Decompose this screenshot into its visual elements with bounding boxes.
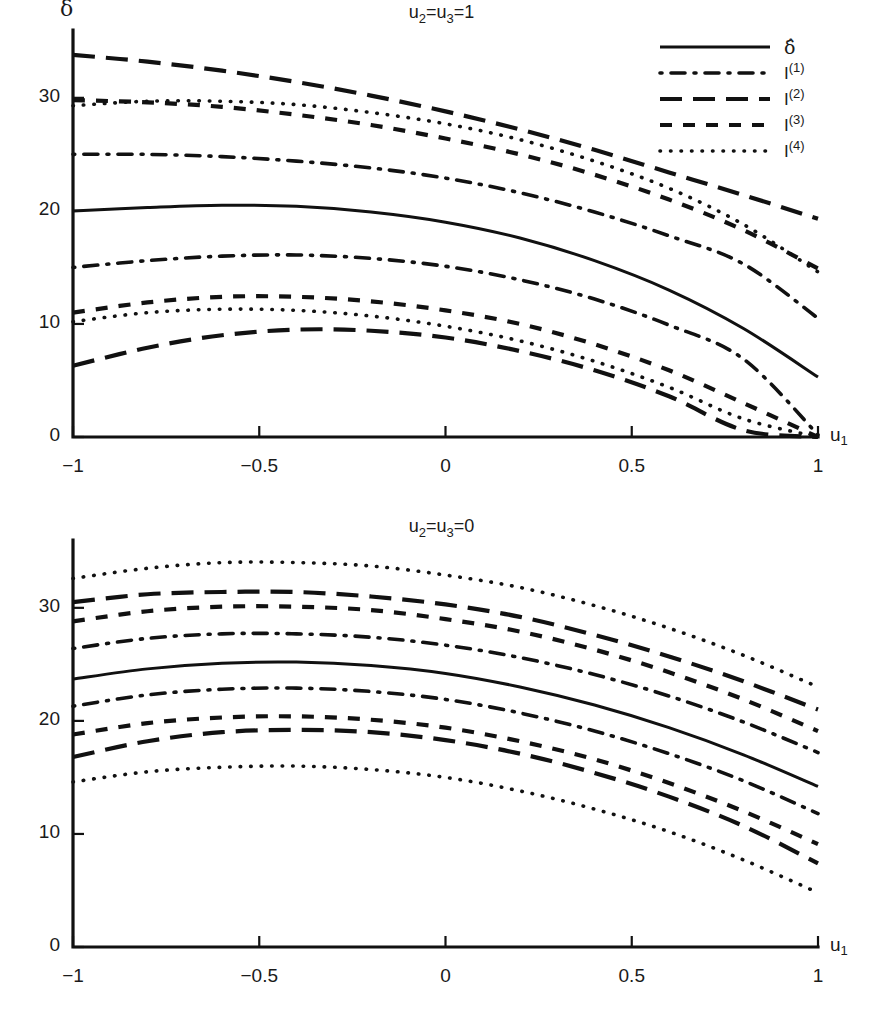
curve-i1upper xyxy=(73,154,818,318)
x-axis-title-bottom: u1 xyxy=(830,934,848,958)
x-tick-label: −0.5 xyxy=(219,455,299,477)
y-tick-label: 30 xyxy=(0,85,60,107)
y-tick-label: 10 xyxy=(0,311,60,333)
legend-label-I-3: I(3) xyxy=(784,112,805,136)
title-u3-sub: 3 xyxy=(447,525,454,540)
curve-group-top xyxy=(73,55,818,437)
title-u2-base: u xyxy=(409,516,419,536)
title-u2-sub: 2 xyxy=(419,11,426,26)
x-axis-title-base-bottom: u xyxy=(830,934,841,955)
title-u2-base: u xyxy=(409,2,419,22)
curve-delta-hat xyxy=(73,662,818,787)
curve-i3lower xyxy=(73,296,818,437)
legend-group xyxy=(660,47,770,151)
x-tick-label: −0.5 xyxy=(219,965,299,987)
legend-label-I-2: I(2) xyxy=(784,86,805,110)
title-eq2: = xyxy=(454,2,465,22)
legend-label-superscript: (2) xyxy=(789,86,805,101)
title-value: 0 xyxy=(464,516,474,536)
x-axis-title-top: u1 xyxy=(830,424,848,448)
x-tick-label: −1 xyxy=(33,965,113,987)
y-tick-label: 0 xyxy=(0,934,60,956)
title-eq2: = xyxy=(454,516,465,536)
x-tick-label: 0 xyxy=(406,455,486,477)
plot-axes xyxy=(73,540,818,947)
title-eq1: = xyxy=(426,516,437,536)
x-tick-label: 0.5 xyxy=(592,455,672,477)
axis-group-top xyxy=(73,30,818,437)
legend-label-base: δ̂ xyxy=(784,36,795,58)
tick-group-bottom xyxy=(73,608,818,947)
chart-canvas-top xyxy=(0,0,883,500)
legend-label-delta-hat: δ̂ xyxy=(784,34,795,57)
y-tick-label: 10 xyxy=(0,821,60,843)
title-eq1: = xyxy=(426,2,437,22)
y-tick-label: 30 xyxy=(0,595,60,617)
x-axis-title-sub-bottom: 1 xyxy=(841,943,848,958)
title-value: 1 xyxy=(464,2,474,22)
x-axis-title-sub-top: 1 xyxy=(841,433,848,448)
y-tick-label: 20 xyxy=(0,198,60,220)
title-u3-base: u xyxy=(436,2,446,22)
panel-title-top: u2=u3=1 xyxy=(0,2,883,26)
legend-label-I-4: I(4) xyxy=(784,138,805,162)
y-axis-title-top: δ xyxy=(60,0,73,21)
figure-root: u2=u3=1 δ u1 −1−0.500.51 0102030 δ̂I(1)I… xyxy=(0,0,883,1021)
chart-panel-bottom: u2=u3=0 u1 −1−0.500.51 0102030 xyxy=(0,510,883,1010)
x-tick-label: 0.5 xyxy=(592,965,672,987)
x-axis-title-base-top: u xyxy=(830,424,841,445)
panel-title-bottom: u2=u3=0 xyxy=(0,516,883,540)
curve-i1lower xyxy=(73,255,818,435)
title-u2-sub: 2 xyxy=(419,525,426,540)
curve-i4lower xyxy=(73,309,818,437)
x-tick-label: 0 xyxy=(406,965,486,987)
x-tick-label: 1 xyxy=(778,965,858,987)
curve-delta-hat xyxy=(73,205,818,377)
legend-label-superscript: (4) xyxy=(789,138,805,153)
curve-group-bottom xyxy=(73,562,818,893)
curve-i1lower xyxy=(73,688,818,814)
chart-canvas-bottom xyxy=(0,510,883,1010)
x-tick-label: −1 xyxy=(33,455,113,477)
y-tick-label: 0 xyxy=(0,424,60,446)
plot-axes xyxy=(73,30,818,437)
title-u3-base: u xyxy=(436,516,446,536)
legend-label-superscript: (1) xyxy=(789,60,805,75)
axis-group-bottom xyxy=(73,540,818,947)
title-u3-sub: 3 xyxy=(447,11,454,26)
curve-i4lower xyxy=(73,766,818,893)
chart-panel-top: u2=u3=1 δ u1 −1−0.500.51 0102030 δ̂I(1)I… xyxy=(0,0,883,500)
legend-label-I-1: I(1) xyxy=(784,60,805,84)
curve-i2lower xyxy=(73,329,818,437)
legend-label-superscript: (3) xyxy=(789,112,805,127)
x-tick-label: 1 xyxy=(778,455,858,477)
y-tick-label: 20 xyxy=(0,708,60,730)
